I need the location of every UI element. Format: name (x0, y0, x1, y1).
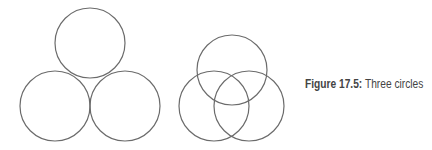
circle (20, 71, 90, 141)
circle (197, 35, 267, 105)
tangent-circles-group (20, 8, 160, 141)
overlapping-circles-group (179, 35, 284, 141)
figure-title: Three circles (362, 77, 423, 91)
figure-caption: Figure 17.5: Three circles (305, 77, 423, 91)
figure-canvas (0, 0, 432, 150)
figure-number: Figure 17.5: (305, 77, 362, 91)
circle (90, 71, 160, 141)
circle (55, 8, 125, 78)
